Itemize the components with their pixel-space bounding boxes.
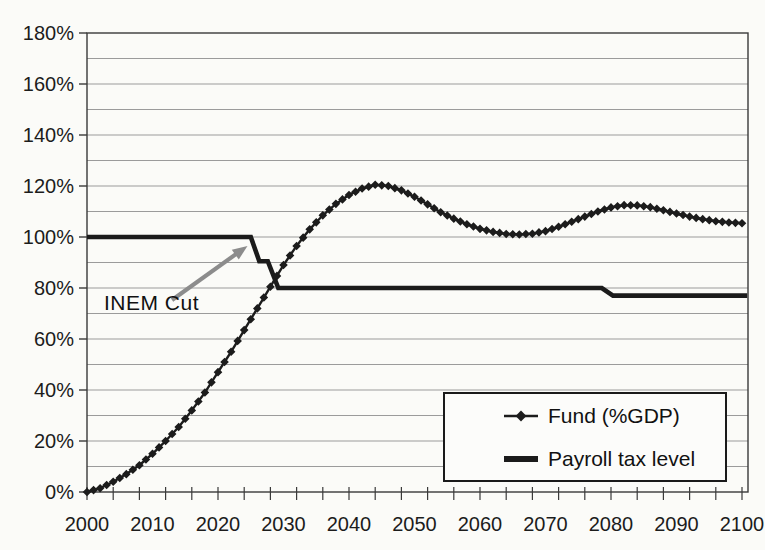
x-axis-label: 2030 [261, 513, 306, 535]
y-axis-label: 160% [23, 73, 74, 95]
fund-series-legend-marker-icon [503, 408, 539, 424]
y-axis-label: 80% [34, 277, 74, 299]
x-axis-label: 2000 [65, 513, 110, 535]
y-axis-label: 20% [34, 430, 74, 452]
y-axis-label: 60% [34, 328, 74, 350]
payroll-tax-line [87, 237, 747, 296]
y-axis-label: 40% [34, 379, 74, 401]
y-axis-label: 180% [23, 22, 74, 44]
legend-item-fund: Fund (%GDP) [503, 404, 725, 428]
y-axis-label: 0% [45, 481, 74, 503]
x-axis-label: 2060 [458, 513, 503, 535]
x-axis-label: 2080 [589, 513, 634, 535]
x-axis-label: 2050 [392, 513, 437, 535]
x-axis-label: 2100 [720, 513, 765, 535]
x-axis-label: 2040 [327, 513, 372, 535]
payroll-series-legend-marker-icon [503, 451, 539, 467]
x-axis-label: 2070 [523, 513, 568, 535]
pension-fund-projection-figure: 0%20%40%60%80%100%120%140%160%180%200020… [0, 0, 765, 550]
legend-label-payroll: Payroll tax level [548, 447, 695, 471]
y-axis-label: 140% [23, 124, 74, 146]
inem-cut-annotation: INEM Cut [104, 291, 199, 315]
legend-item-payroll: Payroll tax level [503, 447, 725, 471]
y-axis-label: 120% [23, 175, 74, 197]
legend-label-fund: Fund (%GDP) [548, 404, 680, 428]
x-axis-label: 2020 [196, 513, 241, 535]
chart-legend: Fund (%GDP) Payroll tax level [443, 392, 727, 482]
x-axis-label: 2090 [654, 513, 699, 535]
x-axis-label: 2010 [130, 513, 175, 535]
y-axis-label: 100% [23, 226, 74, 248]
